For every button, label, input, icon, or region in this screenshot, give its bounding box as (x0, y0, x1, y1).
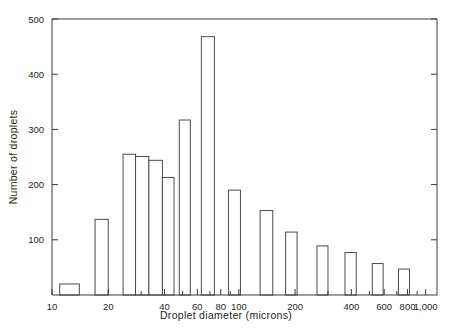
y-axis-title: Number of droplets (7, 110, 19, 205)
histogram-bar (260, 211, 273, 295)
y-tick-label: 300 (28, 124, 44, 135)
x-tick-label: 400 (343, 301, 359, 312)
histogram-bar (372, 264, 383, 295)
x-axis-title: Droplet diameter (microns) (160, 309, 292, 321)
histogram-bar (123, 154, 136, 295)
histogram-bar (95, 219, 108, 295)
x-tick-label: 20 (103, 301, 114, 312)
x-tick-label: 600 (376, 301, 392, 312)
histogram-bar (286, 232, 297, 295)
y-tick-label: 100 (28, 234, 44, 245)
histogram-bar (228, 190, 240, 295)
histogram-bar (60, 284, 80, 295)
y-tick-label: 400 (28, 69, 44, 80)
x-tick-label: 10 (47, 301, 58, 312)
histogram-bar (179, 120, 190, 295)
histogram-bar (317, 246, 328, 295)
histogram-bar (345, 252, 356, 295)
y-tick-label: 200 (28, 179, 44, 190)
chart-canvas: 100200300400500 102040608010020040060080… (0, 0, 451, 328)
histogram-bar (162, 177, 174, 295)
x-tick-label: 1,000 (414, 301, 438, 312)
histogram-bar (149, 160, 163, 295)
y-tick-label: 500 (28, 14, 44, 25)
droplet-size-histogram: 100200300400500 102040608010020040060080… (0, 0, 451, 328)
histogram-bar (201, 37, 214, 295)
histogram-bar (136, 156, 149, 295)
